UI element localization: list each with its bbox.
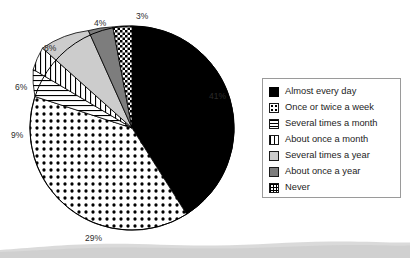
legend-item-almost-every-day[interactable]: Almost every day bbox=[269, 84, 400, 100]
solid-black-swatch-icon bbox=[269, 87, 279, 97]
dotted-swatch-icon bbox=[269, 103, 279, 113]
pie-label-3: 3% bbox=[136, 12, 148, 21]
pie-label-4: 4% bbox=[94, 19, 106, 28]
legend-item-several-times-a-month[interactable]: Several times a month bbox=[269, 116, 400, 132]
legend-label: Several times a month bbox=[285, 119, 378, 128]
legend-item-once-or-twice-a-week[interactable]: Once or twice a week bbox=[269, 100, 400, 116]
pie-chart-figure: 41% 29% 9% 6% 8% 4% 3% Almost every day … bbox=[0, 0, 410, 258]
legend-item-about-once-a-year[interactable]: About once a year bbox=[269, 164, 400, 180]
legend-item-never[interactable]: Never bbox=[269, 180, 400, 196]
pie-svg bbox=[0, 0, 262, 246]
pie-label-41: 41% bbox=[209, 92, 226, 101]
vertical-lines-swatch-icon bbox=[269, 135, 279, 145]
pie-label-8: 8% bbox=[44, 44, 56, 53]
legend-label: Several times a year bbox=[285, 151, 370, 160]
horizontal-lines-swatch-icon bbox=[269, 119, 279, 129]
legend-label: Once or twice a week bbox=[285, 103, 374, 112]
legend-item-about-once-a-month[interactable]: About once a month bbox=[269, 132, 400, 148]
legend-item-several-times-a-year[interactable]: Several times a year bbox=[269, 148, 400, 164]
checker-swatch-icon bbox=[269, 183, 279, 193]
light-gray-swatch-icon bbox=[269, 151, 279, 161]
decorative-wave-band bbox=[0, 236, 410, 258]
legend-label: About once a month bbox=[285, 135, 368, 144]
legend-label: About once a year bbox=[285, 167, 360, 176]
pie-chart-area: 41% 29% 9% 6% 8% 4% 3% bbox=[0, 0, 262, 246]
pie-label-6: 6% bbox=[15, 83, 27, 92]
pie-label-9: 9% bbox=[11, 131, 23, 140]
legend-label: Almost every day bbox=[285, 87, 356, 96]
dark-gray-swatch-icon bbox=[269, 167, 279, 177]
legend: Almost every day Once or twice a week Se… bbox=[262, 78, 401, 198]
legend-label: Never bbox=[285, 183, 310, 192]
